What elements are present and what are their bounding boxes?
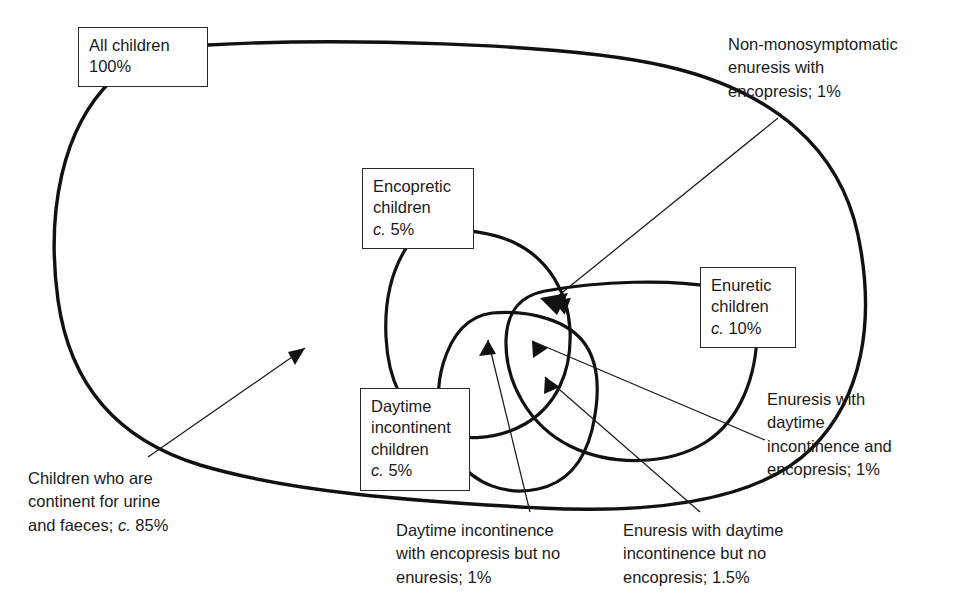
encopretic-line2: children [373, 197, 464, 218]
enurday-enco-line2: daytime [767, 411, 892, 434]
label-box-daytime-incontinent-children: Daytime incontinent children c. 5% [360, 388, 470, 491]
encopretic-approx-prefix: c. [373, 220, 386, 238]
nonmono-line1: Non-monosymptomatic [728, 33, 898, 56]
label-enuresis-daytime-no-encopresis: Enuresis with daytime incontinence but n… [623, 519, 783, 589]
label-non-monosymptomatic-enuresis-with-encopresis: Non-monosymptomatic enuresis with encopr… [728, 33, 898, 103]
encopretic-value: 5% [390, 220, 414, 238]
enurday-enco-line4: encopresis; 1% [767, 458, 892, 481]
enurday-noenco-line1: Enuresis with daytime [623, 519, 783, 542]
label-box-enuretic-children: Enuretic children c. 10% [700, 267, 796, 348]
all-children-line2: 100% [89, 56, 198, 77]
leader-enuresis-daytime-and-encopresis [532, 341, 765, 440]
dayenco-line3: enuresis; 1% [396, 566, 560, 589]
dayenco-line2: with encopresis but no [396, 542, 560, 565]
all-children-line1: All children [89, 35, 198, 56]
venn-diagram-figure: All children 100% Encopretic children c.… [0, 0, 960, 614]
daytime-value-line: c. 5% [371, 460, 460, 481]
daytime-line2: incontinent [371, 417, 460, 438]
enurday-enco-line1: Enuresis with [767, 388, 892, 411]
enuretic-approx-prefix: c. [711, 319, 724, 337]
continent-approx-prefix: c. [118, 516, 131, 534]
nonmono-line3: encopresis; 1% [728, 80, 898, 103]
enuretic-line1: Enuretic [711, 275, 786, 296]
encopretic-value-line: c. 5% [373, 219, 464, 240]
label-continent-children: Children who are continent for urine and… [28, 467, 168, 537]
daytime-line1: Daytime [371, 396, 460, 417]
label-enuresis-daytime-and-encopresis: Enuresis with daytime incontinence and e… [767, 388, 892, 482]
label-box-encopretic-children: Encopretic children c. 5% [362, 168, 474, 249]
enurday-noenco-line2: incontinence but no [623, 542, 783, 565]
continent-line3-text: and faeces; [28, 516, 113, 534]
continent-line2: continent for urine [28, 490, 168, 513]
enuretic-value-line: c. 10% [711, 318, 786, 339]
encopretic-line1: Encopretic [373, 176, 464, 197]
nonmono-line2: enuresis with [728, 56, 898, 79]
dayenco-line1: Daytime incontinence [396, 519, 560, 542]
daytime-line3: children [371, 439, 460, 460]
daytime-approx-prefix: c. [371, 461, 384, 479]
leader-continent-children [148, 348, 305, 457]
enurday-noenco-line3: encopresis; 1.5% [623, 566, 783, 589]
continent-line3: and faeces; c. 85% [28, 514, 168, 537]
daytime-value: 5% [388, 461, 412, 479]
label-daytime-incontinence-with-encopresis: Daytime incontinence with encopresis but… [396, 519, 560, 589]
enuretic-line2: children [711, 296, 786, 317]
continent-value: 85% [135, 516, 168, 534]
continent-line1: Children who are [28, 467, 168, 490]
enuretic-value: 10% [728, 319, 761, 337]
label-box-all-children: All children 100% [78, 27, 208, 87]
enurday-enco-line3: incontinence and [767, 435, 892, 458]
